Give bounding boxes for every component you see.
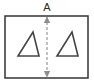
diagram-container: A: [0, 0, 94, 83]
dimension-label-a: A: [43, 1, 51, 13]
diagram-canvas: A: [0, 0, 94, 83]
